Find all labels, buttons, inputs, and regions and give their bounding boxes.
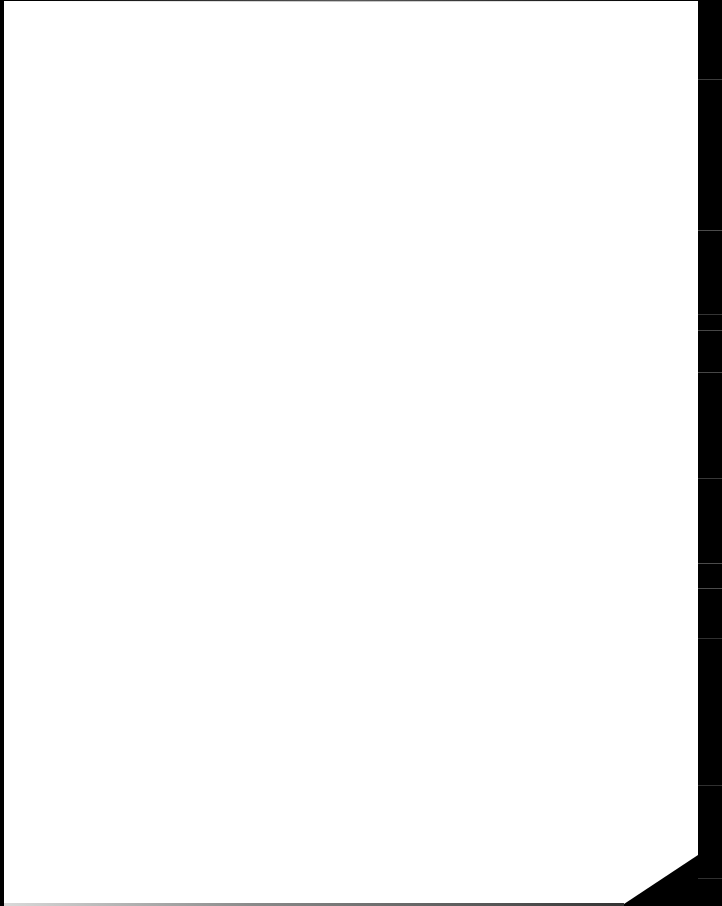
blank-document-page bbox=[4, 1, 698, 904]
page-top-edge bbox=[40, 0, 660, 2]
scanner-edge-streaks bbox=[698, 0, 722, 906]
scan-background bbox=[0, 0, 722, 906]
